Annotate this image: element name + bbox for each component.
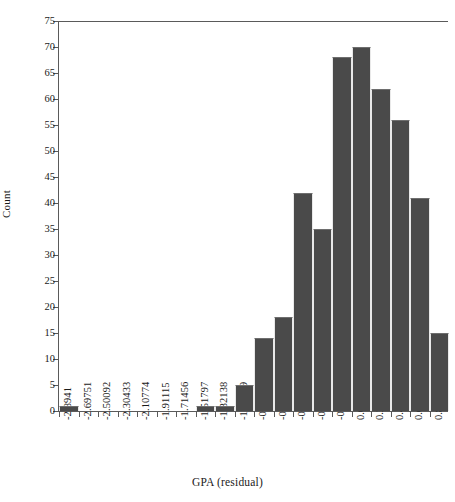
- y-tick: 60: [58, 99, 63, 100]
- histogram-bar: [293, 193, 313, 411]
- y-tick-label: 35: [45, 221, 56, 237]
- x-tick-mark: [98, 412, 99, 417]
- y-tick: 45: [58, 177, 63, 178]
- x-tick-mark: [410, 412, 411, 417]
- y-tick: 10: [58, 359, 63, 360]
- x-tick-label: -2.30433: [122, 382, 131, 420]
- x-tick-mark: [293, 412, 294, 417]
- y-tick: 30: [58, 255, 63, 256]
- x-tick-mark: [352, 412, 353, 417]
- x-tick-mark: [137, 412, 138, 417]
- y-tick: 50: [58, 151, 63, 152]
- y-tick: 70: [58, 47, 63, 48]
- histogram-bar: [371, 89, 391, 411]
- y-tick-label: 10: [45, 351, 56, 367]
- y-tick-label: 0: [50, 403, 55, 419]
- x-axis-title: GPA (residual): [0, 476, 455, 488]
- y-tick-label: 70: [45, 39, 56, 55]
- x-tick-mark: [274, 412, 275, 417]
- x-tick-mark: [371, 412, 372, 417]
- y-tick: 55: [58, 125, 63, 126]
- histogram-bar: [352, 47, 372, 411]
- histogram-bar: [235, 385, 255, 411]
- x-tick-mark: [157, 412, 158, 417]
- y-tick: 65: [58, 73, 63, 74]
- y-tick: 35: [58, 229, 63, 230]
- y-tick-label: 55: [45, 117, 56, 133]
- x-tick-label: -1.71456: [180, 382, 189, 420]
- y-tick: 75: [58, 21, 63, 22]
- x-tick-mark: [215, 412, 216, 417]
- x-tick-label: -1.51797: [200, 382, 209, 420]
- x-tick-mark: [118, 412, 119, 417]
- histogram-figure: Count 051015202530354045505560657075 -2.…: [0, 0, 455, 502]
- histogram-bar: [59, 406, 79, 411]
- x-tick-label: -2.10774: [141, 382, 150, 420]
- y-tick-label: 5: [50, 377, 55, 393]
- y-axis-line: [58, 21, 59, 412]
- histogram-bar: [391, 120, 411, 411]
- x-tick-mark: [391, 412, 392, 417]
- histogram-bar: [196, 406, 216, 411]
- y-tick-label: 75: [45, 13, 56, 29]
- y-tick-label: 60: [45, 91, 56, 107]
- x-tick-mark: [254, 412, 255, 417]
- y-tick-label: 25: [45, 273, 56, 289]
- x-axis-line: [58, 411, 448, 412]
- y-tick-label: 20: [45, 299, 56, 315]
- y-tick: 5: [58, 385, 63, 386]
- x-tick-label: -2.50092: [102, 382, 111, 420]
- x-tick-mark: [79, 412, 80, 417]
- x-tick-mark: [313, 412, 314, 417]
- x-tick-mark: [176, 412, 177, 417]
- y-tick-label: 40: [45, 195, 56, 211]
- y-tick-label: 50: [45, 143, 56, 159]
- x-tick-mark: [235, 412, 236, 417]
- y-tick-label: 15: [45, 325, 56, 341]
- x-tick-label: -2.69751: [83, 382, 92, 420]
- y-tick: 15: [58, 333, 63, 334]
- plot-frame-top: [58, 21, 448, 22]
- histogram-bar: [410, 198, 430, 411]
- plot-area: 051015202530354045505560657075 -2.8941-2…: [58, 21, 448, 412]
- y-tick-label: 65: [45, 65, 56, 81]
- x-tick-label: -1.91115: [161, 382, 170, 420]
- y-tick: 40: [58, 203, 63, 204]
- y-tick: 25: [58, 281, 63, 282]
- histogram-bar: [332, 57, 352, 411]
- x-tick-mark: [196, 412, 197, 417]
- histogram-bar: [215, 406, 235, 411]
- histogram-bar: [313, 229, 333, 411]
- x-tick-label: -2.8941: [63, 387, 72, 420]
- y-tick-label: 30: [45, 247, 56, 263]
- x-tick-mark: [430, 412, 431, 417]
- x-tick-label: -1.32138: [219, 382, 228, 420]
- y-axis-title: Count: [0, 200, 12, 218]
- y-tick: 20: [58, 307, 63, 308]
- y-tick-label: 45: [45, 169, 56, 185]
- histogram-bar: [274, 317, 294, 411]
- histogram-bar: [254, 338, 274, 411]
- histogram-bar: [430, 333, 450, 411]
- x-tick-mark: [332, 412, 333, 417]
- x-tick-mark: [59, 412, 60, 417]
